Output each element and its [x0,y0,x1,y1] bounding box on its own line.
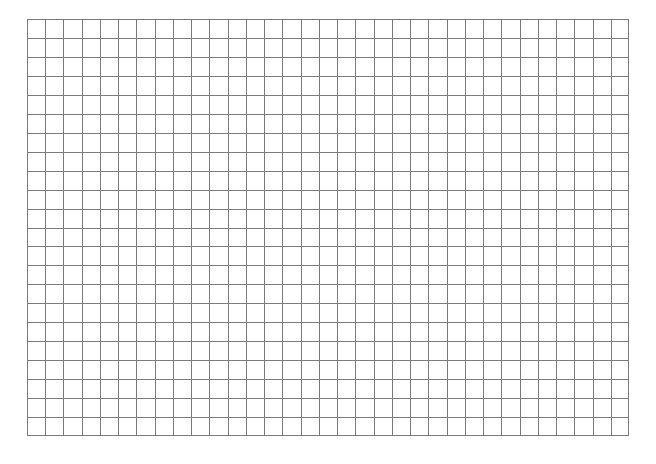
grid-lines [27,19,629,436]
grid-paper: Blank grid paper [27,19,629,436]
